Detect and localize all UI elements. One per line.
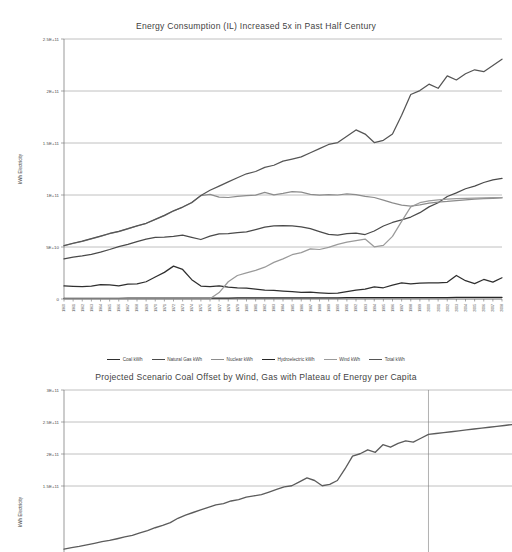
x-tick-label: 2007: [491, 304, 495, 312]
x-tick-label: 1965: [108, 304, 112, 312]
legend-swatch: [211, 359, 224, 361]
chart-1-title: Energy Consumption (IL) Increased 5x in …: [0, 0, 512, 31]
x-tick-label: 1985: [291, 304, 295, 312]
x-tick-label: 2001: [437, 304, 441, 312]
x-tick-label: 2006: [482, 304, 486, 312]
chart-1-plot: 05E+101E+111.5E+112E+112.5E+11kWh Electr…: [0, 31, 512, 356]
x-tick-label: 1972: [172, 304, 176, 312]
y-tick-label: 2E+11: [47, 89, 60, 94]
x-tick-label: 1995: [382, 304, 386, 312]
x-tick-label: 1971: [163, 304, 167, 312]
x-tick-label: 2000: [427, 304, 431, 312]
chart-2-title: Projected Scenario Coal Offset by Wind, …: [0, 362, 512, 382]
y-tick-label: 3E+11: [47, 388, 60, 393]
x-tick-label: 1988: [318, 304, 322, 312]
x-tick-label: 1987: [309, 304, 313, 312]
x-tick-label: 2002: [446, 304, 450, 312]
x-tick-label: 1960: [62, 304, 66, 312]
x-tick-label: 1968: [135, 304, 139, 312]
legend-swatch: [369, 359, 382, 361]
x-tick-label: 1978: [227, 304, 231, 312]
x-tick-label: 1983: [272, 304, 276, 312]
x-tick-label: 1966: [117, 304, 121, 312]
x-tick-label: 1977: [218, 304, 222, 312]
legend-swatch: [324, 359, 337, 361]
legend-swatch: [107, 359, 120, 361]
y-tick-label: 1.5E+11: [43, 141, 60, 146]
y-tick-label: 0: [57, 297, 60, 302]
y-tick-label: 2E+11: [47, 452, 60, 457]
legend-swatch: [152, 359, 165, 361]
x-tick-label: 1981: [254, 304, 258, 312]
x-tick-label: 1989: [327, 304, 331, 312]
x-tick-label: 1980: [245, 304, 249, 312]
x-tick-label: 1969: [145, 304, 149, 312]
y-axis-title: kWh Electricity: [18, 153, 23, 184]
series-line: [64, 266, 502, 293]
x-tick-label: 1997: [400, 304, 404, 312]
x-tick-label: 1963: [90, 304, 94, 312]
y-tick-label: 1E+11: [47, 193, 60, 198]
chart-1-block: Energy Consumption (IL) Increased 5x in …: [0, 0, 512, 362]
legend-swatch: [262, 359, 275, 361]
x-tick-label: 1964: [99, 304, 103, 312]
x-tick-label: 1976: [208, 304, 212, 312]
x-tick-label: 1961: [72, 304, 76, 312]
x-tick-label: 2008: [500, 304, 504, 312]
x-tick-label: 1986: [300, 304, 304, 312]
x-tick-label: 1970: [154, 304, 158, 312]
series-line: [64, 59, 502, 245]
x-tick-label: 1991: [345, 304, 349, 312]
x-tick-label: 1993: [364, 304, 368, 312]
x-tick-label: 1990: [336, 304, 340, 312]
series-line: [64, 425, 512, 550]
x-tick-label: 1967: [126, 304, 130, 312]
chart-2-plot: 1.5E+112E+112.5E+113E+11kWh Electricity: [0, 382, 512, 552]
y-tick-label: 1.5E+11: [43, 484, 60, 489]
x-tick-label: 2003: [455, 304, 459, 312]
x-tick-label: 1974: [190, 304, 194, 312]
x-tick-label: 1999: [418, 304, 422, 312]
x-tick-label: 1998: [409, 304, 413, 312]
y-axis-title: kWh Electricity: [18, 496, 23, 527]
y-tick-label: 2.5E+11: [43, 37, 60, 42]
x-tick-label: 1973: [181, 304, 185, 312]
y-tick-label: 2.5E+11: [43, 420, 60, 425]
x-tick-label: 1979: [236, 304, 240, 312]
y-tick-label: 5E+10: [46, 245, 59, 250]
x-tick-label: 1982: [263, 304, 267, 312]
chart-2-block: Projected Scenario Coal Offset by Wind, …: [0, 362, 512, 552]
x-tick-label: 1992: [354, 304, 358, 312]
x-tick-label: 1994: [373, 304, 377, 312]
x-tick-label: 1984: [281, 304, 285, 312]
x-tick-label: 2005: [473, 304, 477, 312]
x-tick-label: 1962: [81, 304, 85, 312]
x-tick-label: 1996: [391, 304, 395, 312]
x-tick-label: 1975: [199, 304, 203, 312]
x-tick-label: 2004: [464, 304, 468, 312]
